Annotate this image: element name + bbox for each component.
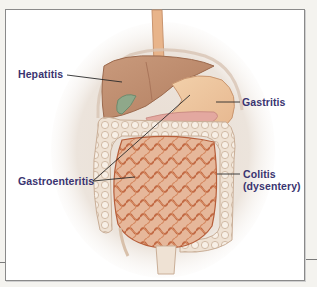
- hepatitis-leader: [67, 75, 122, 82]
- label-colitis-line1: Colitis: [243, 168, 301, 180]
- label-colitis-line2: (dysentery): [243, 180, 301, 192]
- label-gastroenteritis: Gastroenteritis: [18, 175, 94, 187]
- label-gastritis: Gastritis: [242, 96, 286, 108]
- gastroenteritis-leader-intestine: [93, 177, 135, 181]
- label-hepatitis: Hepatitis: [18, 68, 63, 80]
- gastroenteritis-leader-stomach: [93, 95, 190, 181]
- label-colitis: Colitis (dysentery): [243, 168, 301, 192]
- leader-lines: [0, 0, 317, 287]
